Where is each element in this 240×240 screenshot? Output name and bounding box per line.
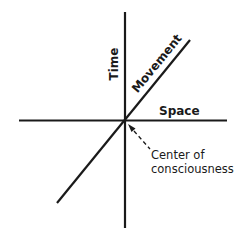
movement-label: Movement — [129, 31, 185, 95]
center-of-label: Center of — [151, 148, 205, 162]
center-pointer-line — [134, 131, 150, 149]
consciousness-label: consciousness — [151, 162, 234, 176]
time-label: Time — [107, 48, 121, 81]
consciousness-axes-diagram: Time Movement Space Center of consciousn… — [0, 0, 240, 240]
space-label: Space — [159, 104, 200, 118]
